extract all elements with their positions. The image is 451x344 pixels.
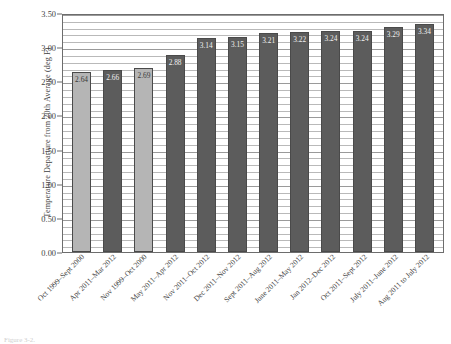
bar: 3.34 [415,24,434,252]
bar-value-label: 3.24 [324,35,337,42]
bar-value-label: 2.64 [75,76,88,83]
y-axis-tick-label: 3.00 [41,44,56,53]
bar-value-label: 3.14 [200,42,213,49]
bar: 3.29 [384,27,403,252]
y-axis-tick-label: 1.50 [41,146,56,155]
bar-slot: 3.22 [284,15,315,252]
bar: 3.14 [197,38,216,252]
bar-value-label: 2.88 [169,59,182,66]
y-axis-tick-label: 2.50 [41,78,56,87]
bar: 3.24 [353,31,372,252]
y-axis-tick-label: 2.00 [41,112,56,121]
bar-value-label: 3.34 [418,28,431,35]
bar-slot: 3.24 [315,15,346,252]
bar-value-label: 3.21 [262,37,275,44]
y-axis-tick-label: 1.00 [41,180,56,189]
bar: 3.24 [321,31,340,252]
bar: 3.21 [259,33,278,252]
y-axis-tick-label: 3.50 [41,10,56,19]
y-axis-ticks: 0.000.501.001.502.002.503.003.50 [0,14,62,253]
bar-slot: 2.66 [97,15,128,252]
y-axis-tick-label: 0.50 [41,214,56,223]
bar-slot: 2.88 [160,15,191,252]
bar-value-label: 3.29 [387,31,400,38]
bar: 3.22 [290,32,309,252]
bar-value-label: 3.22 [293,36,306,43]
bar-slot: 3.14 [191,15,222,252]
bar: 2.69 [134,68,153,252]
bar-value-label: 3.24 [356,35,369,42]
bar-slot: 2.64 [66,15,97,252]
bar-slot: 3.15 [222,15,253,252]
bar-slot: 3.21 [253,15,284,252]
figure-container: Temperature Departure from 20th Average … [0,0,451,344]
bar-slot: 2.69 [128,15,159,252]
bar: 2.66 [103,70,122,252]
bar-slot: 3.29 [378,15,409,252]
bar-slot: 3.24 [347,15,378,252]
bar-value-label: 3.15 [231,41,244,48]
x-axis-tick-labels: Oct 1999–Sept 2000Apr 2011–Mar 2012Nov 1… [62,253,444,344]
bar: 2.88 [166,55,185,252]
bar-value-label: 2.66 [106,74,119,81]
y-axis-tick-label: 0.00 [41,249,56,258]
bar-series: 2.642.662.692.883.143.153.213.223.243.24… [63,15,443,252]
figure-caption: Figure 3-2. [4,336,35,344]
bar: 2.64 [72,72,91,252]
plot-area: 2.642.662.692.883.143.153.213.223.243.24… [62,14,444,253]
bar-slot: 3.34 [409,15,440,252]
bar-value-label: 2.69 [137,72,150,79]
bar: 3.15 [228,37,247,252]
